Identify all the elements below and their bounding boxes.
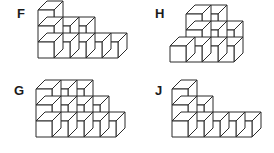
cube-front-face — [172, 121, 188, 137]
figure-j: J — [137, 77, 274, 153]
cube-front-face — [36, 121, 52, 137]
figure-grid: F H G J — [0, 0, 274, 153]
cube-stack-f — [0, 0, 137, 76]
cube-stack-j — [137, 77, 274, 153]
cube-stack-h — [137, 0, 274, 76]
cube-front-face — [38, 42, 54, 58]
figure-g: G — [0, 77, 137, 153]
figure-f: F — [0, 0, 137, 76]
cube-stack-g — [0, 77, 137, 153]
figure-h: H — [137, 0, 274, 76]
cube-front-face — [170, 46, 186, 62]
